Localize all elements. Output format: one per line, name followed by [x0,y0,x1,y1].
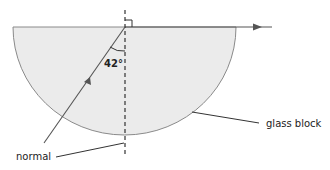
glass-block-label: glass block [266,118,322,129]
normal-pointer [56,143,124,157]
normal-label: normal [16,151,51,162]
refraction-diagram: 42° normal glass block [0,0,330,170]
angle-label: 42° [104,58,123,69]
emergent-arrow-icon [253,24,262,31]
glass-block-pointer [192,112,259,123]
right-angle-marker [125,20,132,27]
